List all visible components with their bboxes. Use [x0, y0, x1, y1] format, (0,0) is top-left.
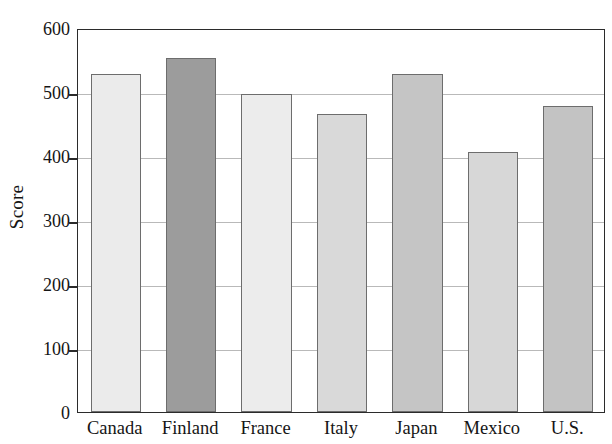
y-axis-tick-label: 500	[26, 84, 70, 102]
x-axis-label-italy: Italy	[303, 416, 378, 440]
y-axis-tick-label: 100	[26, 340, 70, 358]
x-axis-label-japan: Japan	[379, 416, 454, 440]
y-axis-tick-mark	[69, 222, 78, 224]
y-axis-tick-mark	[69, 286, 78, 288]
x-axis-label-u-s: U.S.	[530, 416, 605, 440]
y-axis-tick-mark	[69, 94, 78, 96]
y-axis-tick-labels: 0100200300400500600	[20, 0, 70, 444]
x-axis-label-finland: Finland	[152, 416, 227, 440]
y-axis-tick-label: 200	[26, 276, 70, 294]
x-axis-category-labels: CanadaFinlandFranceItalyJapanMexicoU.S.	[77, 416, 605, 444]
x-axis-label-france: France	[228, 416, 303, 440]
y-axis-tick-mark	[69, 158, 78, 160]
bar-france[interactable]	[241, 94, 291, 412]
y-axis-title: Score	[0, 0, 34, 413]
y-axis-tick-label: 400	[26, 148, 70, 166]
bar-u-s[interactable]	[543, 106, 593, 412]
bar-italy[interactable]	[317, 114, 367, 412]
bar-mexico[interactable]	[468, 152, 518, 412]
y-axis-title-text: Score	[6, 184, 28, 228]
plot-area	[77, 29, 605, 413]
y-axis-tick-label: 0	[26, 404, 70, 422]
bar-japan[interactable]	[392, 74, 442, 412]
bar-canada[interactable]	[91, 74, 141, 412]
y-axis-tick-label: 600	[26, 20, 70, 38]
y-axis-tick-mark	[69, 350, 78, 352]
x-axis-label-canada: Canada	[77, 416, 152, 440]
x-axis-label-mexico: Mexico	[454, 416, 529, 440]
bar-finland[interactable]	[166, 58, 216, 412]
y-axis-tick-label: 300	[26, 212, 70, 230]
bar-chart: Score 0100200300400500600 CanadaFinlandF…	[0, 0, 612, 444]
bars-group	[78, 30, 604, 412]
